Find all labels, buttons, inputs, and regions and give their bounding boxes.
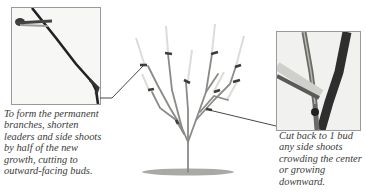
caption-line: or growing bbox=[279, 164, 366, 175]
caption-line: downward. bbox=[279, 176, 366, 187]
caption-line: branches, shorten bbox=[4, 119, 129, 130]
branch-photo-icon bbox=[277, 32, 360, 130]
branch-photo-icon bbox=[12, 8, 100, 104]
caption-line: growth, cutting to bbox=[4, 154, 129, 165]
caption-right: Cut back to 1 bud any side shoots crowdi… bbox=[279, 130, 366, 187]
branches-icon bbox=[148, 54, 236, 172]
caption-line: any side shoots bbox=[279, 141, 366, 152]
photo-left-pruning-leader bbox=[11, 7, 101, 105]
cut-marks-icon bbox=[140, 52, 241, 124]
leader-line-right bbox=[209, 110, 276, 126]
caption-line: leaders and side shoots bbox=[4, 131, 129, 142]
caption-left: To form the permanent branches, shorten … bbox=[4, 108, 129, 176]
photo-right-cutting-side-shoot bbox=[276, 31, 361, 131]
ground-shadow bbox=[142, 169, 234, 176]
caption-line: crowding the center bbox=[279, 153, 366, 164]
leader-line-left bbox=[100, 66, 143, 98]
new-growth-icon bbox=[136, 24, 244, 100]
caption-line: Cut back to 1 bud bbox=[279, 130, 366, 141]
caption-line: outward-facing buds. bbox=[4, 165, 129, 176]
caption-line: To form the permanent bbox=[4, 108, 129, 119]
caption-line: by half of the new bbox=[4, 142, 129, 153]
